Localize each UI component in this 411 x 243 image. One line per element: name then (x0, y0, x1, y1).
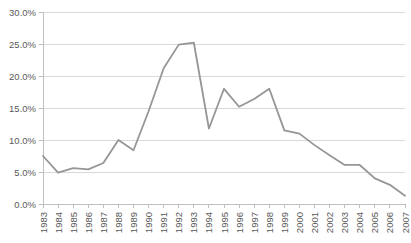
x-axis-tick-label: 1987 (98, 212, 109, 233)
x-axis-tick-label: 2004 (354, 212, 365, 233)
x-axis-tick-label: 1991 (158, 212, 169, 233)
x-axis-tick-label: 1997 (249, 212, 260, 233)
x-axis-tick-label: 2001 (309, 212, 320, 233)
x-axis-tick-label: 2002 (324, 212, 335, 233)
x-axis-tick-label: 1999 (279, 212, 290, 233)
y-axis-tick-label: 15.0% (9, 103, 36, 114)
x-axis-tick-label: 1995 (219, 212, 230, 233)
y-axis-tick-label: 0.0% (14, 199, 36, 210)
x-axis-tick-label: 1992 (173, 212, 184, 233)
y-axis-tick-label: 20.0% (9, 71, 36, 82)
x-axis-tick-label: 1998 (264, 212, 275, 233)
x-axis-tick-label: 2007 (400, 212, 411, 233)
chart-container: 0.0%5.0%10.0%15.0%20.0%25.0%30.0% 198319… (0, 0, 411, 243)
x-axis-tick-label: 1988 (113, 212, 124, 233)
x-axis-tick-label: 2006 (384, 212, 395, 233)
y-axis-tick-label: 25.0% (9, 39, 36, 50)
x-axis-tick-label: 1996 (234, 212, 245, 233)
x-axis-tick-label: 2000 (294, 212, 305, 233)
x-axis-tick-label: 1983 (38, 212, 49, 233)
x-axis-tick-label: 1990 (143, 212, 154, 233)
x-axis-tick-label: 1989 (128, 212, 139, 233)
line-chart: 0.0%5.0%10.0%15.0%20.0%25.0%30.0% 198319… (0, 0, 411, 243)
x-axis-tick-labels: 1983198419851986198719881989199019911992… (38, 212, 411, 233)
x-axis-tick-label: 1985 (68, 212, 79, 233)
x-axis-tick-label: 1986 (83, 212, 94, 233)
x-axis-tick-label: 1984 (53, 212, 64, 233)
chart-background (0, 0, 411, 243)
y-axis-tick-label: 30.0% (9, 7, 36, 18)
x-axis-tick-label: 1994 (203, 212, 214, 233)
x-axis-tick-label: 1993 (188, 212, 199, 233)
x-axis-tick-label: 2005 (369, 212, 380, 233)
x-axis-tick-label: 2003 (339, 212, 350, 233)
y-axis-tick-label: 5.0% (14, 167, 36, 178)
y-axis-tick-label: 10.0% (9, 135, 36, 146)
